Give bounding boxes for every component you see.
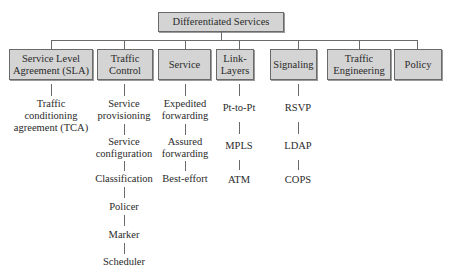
connector-svc-1 bbox=[185, 84, 186, 96]
connector-sig-3 bbox=[298, 160, 299, 170]
connector-tc-3 bbox=[124, 161, 125, 171]
child-expedited-forwarding: Expedited forwarding bbox=[162, 98, 209, 122]
connector-tc-2 bbox=[124, 124, 125, 135]
child-assured-forwarding-line2: forwarding bbox=[162, 148, 209, 159]
child-ldap-label: LDAP bbox=[284, 140, 311, 151]
child-pt-to-pt-label: Pt-to-Pt bbox=[223, 102, 256, 113]
category-traffic-engineering: Traffic Engineering bbox=[327, 49, 391, 80]
child-tca: Traffic conditioning agreement (TCA) bbox=[14, 98, 88, 134]
category-link-layers-label: Link- Layers bbox=[221, 53, 250, 77]
category-traffic-control-label-line1: Traffic bbox=[111, 53, 140, 64]
category-policy: Policy bbox=[394, 49, 442, 80]
child-policer-label: Policer bbox=[109, 201, 139, 212]
drop-traffic-control bbox=[124, 40, 125, 49]
child-mpls: MPLS bbox=[225, 140, 252, 152]
child-pt-to-pt: Pt-to-Pt bbox=[223, 102, 256, 114]
category-signaling-label: Signaling bbox=[273, 59, 313, 71]
connector-sla-1 bbox=[51, 84, 52, 96]
category-link-layers-label-line1: Link- bbox=[223, 53, 246, 64]
child-tca-line3: agreement (TCA) bbox=[14, 122, 88, 133]
category-traffic-control: Traffic Control bbox=[97, 49, 153, 80]
child-rsvp: RSVP bbox=[285, 102, 311, 114]
child-atm: ATM bbox=[228, 174, 250, 186]
category-sla-label-line1: Service Level bbox=[22, 53, 80, 64]
category-traffic-control-label-line2: Control bbox=[109, 65, 141, 76]
child-classification-label: Classification bbox=[95, 173, 153, 184]
category-signaling: Signaling bbox=[270, 49, 317, 80]
connector-svc-2 bbox=[185, 124, 186, 135]
connector-ll-1 bbox=[239, 84, 240, 96]
connector-tc-5 bbox=[124, 215, 125, 226]
connector-tc-1 bbox=[124, 84, 125, 96]
child-service-provisioning: Service provisioning bbox=[97, 98, 150, 122]
root-label: Differentiated Services bbox=[173, 16, 270, 28]
category-traffic-engineering-label-line1: Traffic bbox=[345, 53, 374, 64]
category-link-layers-label-line2: Layers bbox=[221, 65, 250, 76]
category-sla-label: Service Level Agreement (SLA) bbox=[13, 53, 89, 77]
child-marker: Marker bbox=[109, 229, 140, 241]
child-service-provisioning-line1: Service bbox=[108, 98, 140, 109]
category-link-layers: Link- Layers bbox=[216, 49, 254, 80]
child-tca-line1: Traffic bbox=[37, 98, 66, 109]
child-assured-forwarding-line1: Assured bbox=[168, 136, 202, 147]
child-service-configuration-line1: Service bbox=[108, 136, 140, 147]
child-service-provisioning-line2: provisioning bbox=[97, 110, 150, 121]
child-expedited-forwarding-line1: Expedited bbox=[164, 98, 207, 109]
category-sla: Service Level Agreement (SLA) bbox=[9, 49, 93, 80]
child-rsvp-label: RSVP bbox=[285, 102, 311, 113]
child-best-effort-label: Best-effort bbox=[162, 173, 207, 184]
child-cops-label: COPS bbox=[285, 174, 311, 185]
child-scheduler-label: Scheduler bbox=[103, 256, 145, 267]
child-policer: Policer bbox=[109, 201, 139, 213]
drop-signaling bbox=[298, 40, 299, 49]
category-traffic-control-label: Traffic Control bbox=[109, 53, 141, 77]
child-tca-line2: conditioning bbox=[24, 110, 77, 121]
child-best-effort: Best-effort bbox=[162, 173, 207, 185]
child-scheduler: Scheduler bbox=[103, 256, 145, 268]
connector-ll-3 bbox=[239, 160, 240, 170]
drop-sla bbox=[51, 40, 52, 49]
child-cops: COPS bbox=[285, 174, 311, 186]
child-classification: Classification bbox=[95, 173, 153, 185]
drop-policy bbox=[417, 40, 418, 49]
child-service-configuration-line2: configuration bbox=[96, 148, 153, 159]
drop-service bbox=[185, 40, 186, 49]
child-marker-label: Marker bbox=[109, 229, 140, 240]
child-assured-forwarding: Assured forwarding bbox=[162, 136, 209, 160]
child-ldap: LDAP bbox=[284, 140, 311, 152]
child-atm-label: ATM bbox=[228, 174, 250, 185]
category-sla-label-line2: Agreement (SLA) bbox=[13, 65, 89, 76]
child-expedited-forwarding-line2: forwarding bbox=[162, 110, 209, 121]
drop-link-layers bbox=[239, 40, 240, 49]
drop-traffic-engineering bbox=[359, 40, 360, 49]
child-mpls-label: MPLS bbox=[225, 140, 252, 151]
connector-sig-1 bbox=[298, 84, 299, 96]
connector-ll-2 bbox=[239, 122, 240, 134]
category-bus-line bbox=[51, 40, 418, 41]
category-policy-label: Policy bbox=[405, 59, 432, 71]
connector-tc-4 bbox=[124, 187, 125, 198]
category-traffic-engineering-label-line2: Engineering bbox=[333, 65, 384, 76]
category-service: Service bbox=[158, 49, 211, 80]
connector-tc-6 bbox=[124, 243, 125, 254]
connector-sig-2 bbox=[298, 122, 299, 134]
child-service-configuration: Service configuration bbox=[96, 136, 153, 160]
diff-serv-diagram: Differentiated Services Service Level Ag… bbox=[0, 0, 450, 279]
category-service-label: Service bbox=[169, 59, 201, 71]
category-traffic-engineering-label: Traffic Engineering bbox=[333, 53, 384, 77]
connector-svc-3 bbox=[185, 161, 186, 171]
root-node-differentiated-services: Differentiated Services bbox=[158, 12, 284, 32]
